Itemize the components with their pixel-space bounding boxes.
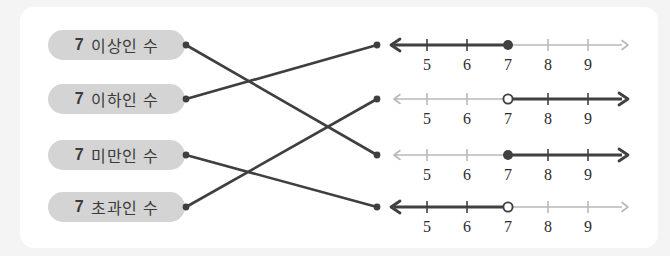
tick-label: 8 [538, 56, 558, 74]
label-pill-iha[interactable]: 7 이하인 수 [48, 84, 185, 114]
label-text: 초과인 수 [91, 195, 158, 219]
tick-label: 8 [538, 166, 558, 184]
tick-label: 9 [578, 166, 598, 184]
label-pill-miman[interactable]: 7 미만인 수 [48, 140, 185, 170]
tick-label: 6 [457, 166, 477, 184]
tick-label: 7 [498, 218, 518, 236]
tick-label: 7 [498, 56, 518, 74]
tick-label: 9 [578, 110, 598, 128]
tick-label: 5 [417, 166, 437, 184]
label-number: 7 [75, 36, 84, 54]
tick-label: 6 [457, 56, 477, 74]
tick-label: 9 [578, 56, 598, 74]
tick-label: 6 [457, 218, 477, 236]
label-text: 이상인 수 [91, 33, 158, 57]
tick-label: 9 [578, 218, 598, 236]
tick-label: 5 [417, 56, 437, 74]
tick-label: 7 [498, 166, 518, 184]
tick-label: 7 [498, 110, 518, 128]
tick-label: 8 [538, 218, 558, 236]
tick-label: 8 [538, 110, 558, 128]
label-number: 7 [75, 198, 84, 216]
tick-label: 5 [417, 110, 437, 128]
matching-exercise: 7 이상인 수 7 이하인 수 7 미만인 수 7 초과인 수 5 6 7 8 … [0, 0, 670, 256]
label-number: 7 [75, 146, 84, 164]
tick-label: 6 [457, 110, 477, 128]
label-pill-isang[interactable]: 7 이상인 수 [48, 30, 185, 60]
label-text: 미만인 수 [91, 143, 158, 167]
tick-label: 5 [417, 218, 437, 236]
label-number: 7 [75, 90, 84, 108]
label-pill-chogwa[interactable]: 7 초과인 수 [48, 192, 185, 222]
label-text: 이하인 수 [91, 87, 158, 111]
